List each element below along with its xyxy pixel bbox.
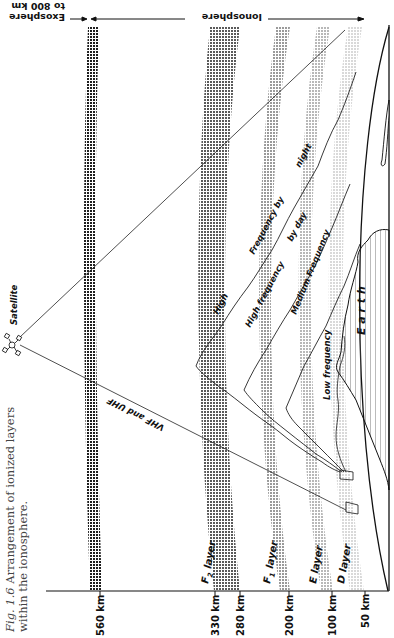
ionosphere-label: Ionosphere xyxy=(202,12,262,23)
earth-label: E a r t h xyxy=(355,286,368,335)
tick-label-200: 200 km xyxy=(284,595,295,636)
figure-caption: Fig. 1.6 Arrangement of ionized layers w… xyxy=(4,402,30,632)
f1-layer-band xyxy=(259,27,290,591)
axis-ticks xyxy=(100,591,365,596)
tick-label-280: 280 km xyxy=(235,595,246,636)
e-layer-band xyxy=(299,27,333,591)
figure-number: Fig. 1.6 xyxy=(3,587,17,632)
vhf-uhf-beam xyxy=(20,345,346,510)
ionosphere-diagram: 560 km 330 km 280 km 200 km 100 km 50 km… xyxy=(0,0,394,638)
exosphere-label: Exosphere xyxy=(9,12,65,23)
satellite-label: Satellite xyxy=(9,285,19,325)
exosphere-band xyxy=(84,27,102,591)
lf-label: Low frequency xyxy=(322,329,332,400)
tick-label-330: 330 km xyxy=(210,595,221,636)
exosphere-altitude-label: to 800 km xyxy=(11,1,65,12)
tick-label-560: 560 km xyxy=(95,595,106,636)
island xyxy=(381,100,389,166)
satellite-icon xyxy=(2,333,21,355)
tick-label-100: 100 km xyxy=(327,595,338,636)
tick-label-50: 50 km xyxy=(360,594,371,628)
axis-labels: 560 km 330 km 280 km 200 km 100 km 50 km xyxy=(95,594,371,636)
